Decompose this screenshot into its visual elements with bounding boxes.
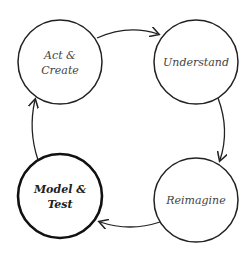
- node-label: Reimagine: [165, 194, 226, 207]
- node-label: Understand: [163, 56, 229, 69]
- node-label: Act &: [43, 49, 76, 62]
- cycle-diagram: Act & Create Understand Reimagine Model …: [0, 0, 251, 257]
- node-model-test: Model & Test: [18, 154, 102, 238]
- node-understand: Understand: [154, 20, 238, 104]
- edge-model-to-act: [32, 100, 38, 160]
- node-label: Test: [47, 198, 72, 211]
- edge-reimagine-to-model: [100, 222, 160, 227]
- node-reimagine: Reimagine: [154, 158, 238, 242]
- node-label: Model &: [33, 183, 86, 196]
- node-act-create: Act & Create: [18, 20, 102, 104]
- edge-act-to-understand: [97, 30, 158, 38]
- edge-understand-to-reimagine: [218, 98, 225, 160]
- node-label: Create: [41, 64, 79, 77]
